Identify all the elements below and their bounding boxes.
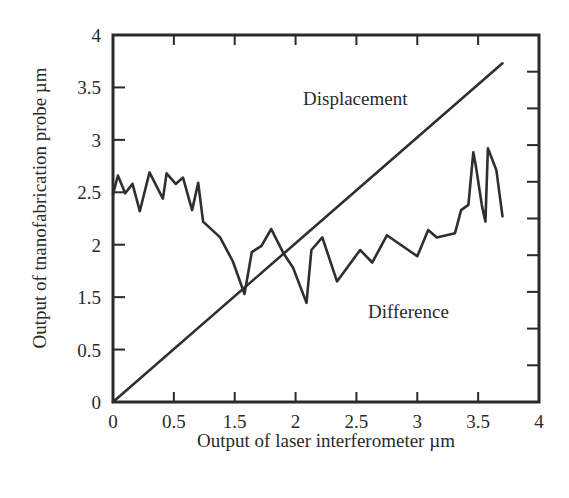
y-tick-label: 3 <box>92 130 102 151</box>
y-tick-label: 0 <box>92 392 102 413</box>
right-axis-ticks <box>527 72 539 366</box>
x-tick-label: 3.5 <box>466 411 490 432</box>
x-axis-tick-labels: 00.51.522.533.54 <box>108 411 544 432</box>
difference-series-line <box>113 148 503 303</box>
y-tick-label: 0.5 <box>77 340 101 361</box>
x-axis-title: Output of laser interferometer µm <box>197 430 455 451</box>
y-tick-label: 2.5 <box>77 182 101 203</box>
difference-annotation: Difference <box>368 301 449 322</box>
x-tick-label: 2.5 <box>345 411 369 432</box>
y-axis-tick-labels: 00.51.522.533.54 <box>77 25 101 413</box>
x-tick-label: 0.5 <box>162 411 186 432</box>
line-chart: 00.51.522.533.54 00.51.522.533.54 Displa… <box>0 0 569 498</box>
y-tick-label: 4 <box>92 25 102 46</box>
y-axis-ticks <box>113 87 125 349</box>
x-tick-label: 3 <box>413 411 423 432</box>
x-tick-label: 0 <box>108 411 118 432</box>
y-axis-title: Output of tnanofabrication probe µm <box>29 67 50 348</box>
displacement-annotation: Displacement <box>303 88 408 109</box>
x-tick-label: 4 <box>534 411 544 432</box>
displacement-series-line <box>113 63 503 402</box>
y-tick-label: 3.5 <box>77 77 101 98</box>
x-tick-label: 2 <box>291 411 301 432</box>
y-tick-label: 2 <box>92 235 102 256</box>
y-tick-label: 1.5 <box>77 287 101 308</box>
x-tick-label: 1.5 <box>223 411 247 432</box>
